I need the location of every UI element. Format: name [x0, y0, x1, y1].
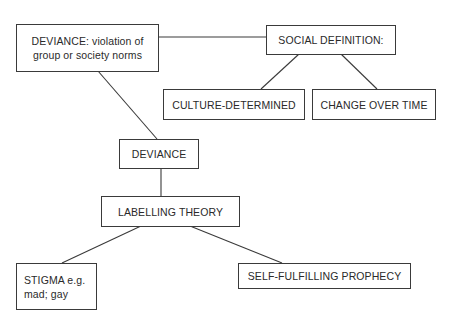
node-stigma: STIGMA e.g. mad; gay: [16, 263, 97, 310]
node-label: DEVIANCE: [132, 147, 186, 161]
edge-labelling-stigma: [62, 226, 141, 263]
node-label: DEVIANCE: violation of group or society …: [32, 34, 144, 62]
node-label: SOCIAL DEFINITION:: [278, 33, 383, 47]
node-change-over-time: CHANGE OVER TIME: [312, 89, 436, 120]
node-deviance: DEVIANCE: [119, 139, 199, 169]
node-self-fulfilling-prophecy: SELF-FULFILLING PROPHECY: [238, 263, 411, 289]
edge-social-culture: [261, 54, 299, 89]
edge-labelling-prophecy: [190, 226, 282, 263]
node-label: LABELLING THEORY: [118, 205, 223, 219]
node-labelling-theory: LABELLING THEORY: [101, 196, 240, 227]
node-label: STIGMA e.g. mad; gay: [24, 273, 85, 301]
node-culture-determined: CULTURE-DETERMINED: [163, 89, 305, 120]
node-label: SELF-FULFILLING PROPHECY: [248, 269, 402, 283]
edge-social-change: [341, 54, 377, 89]
node-social-definition: SOCIAL DEFINITION:: [266, 25, 396, 55]
edge-devdef-deviance: [98, 71, 157, 139]
node-label: CULTURE-DETERMINED: [172, 98, 296, 112]
node-deviance-definition: DEVIANCE: violation of group or society …: [16, 24, 159, 72]
node-label: CHANGE OVER TIME: [320, 98, 427, 112]
